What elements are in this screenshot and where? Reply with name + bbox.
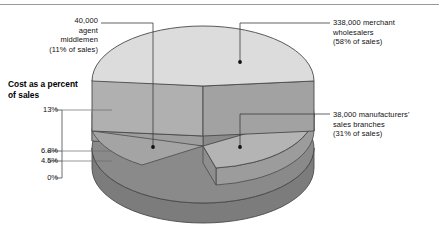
leader-dot-merchant-wholesalers [238,60,242,64]
agent-line2: agent [6,26,98,36]
callout-label-agent-middlemen: 40,000 agent middlemen (11% of sales) [6,16,98,54]
agent-share: (11% of sales) [6,45,98,55]
agent-line3: middlemen [6,35,98,45]
axis-title: Cost as a percent of sales [8,79,118,100]
axis-tick-13: 13% [18,105,58,114]
leader-dot-manufacturers-sales-branches [238,145,242,149]
manufacturers-count: 38,000 manufacturers' [333,110,437,120]
callout-label-manufacturers-sales-branches: 38,000 manufacturers' sales branches (31… [333,110,437,139]
axis-tick-0: 0% [18,173,58,182]
axis-tick-6-8: 6.8% [18,146,58,155]
callout-label-merchant-wholesalers: 338,000 merchant wholesalers (58% of sal… [333,18,437,47]
slice-merchant-wholesalers [92,26,314,136]
merchant-line2: wholesalers [333,28,437,38]
axis-title-line2: of sales [8,90,118,101]
merchant-share: (58% of sales) [333,37,437,47]
manufacturers-line2: sales branches [333,120,437,130]
manufacturers-share: (31% of sales) [333,129,437,139]
agent-count: 40,000 [6,16,98,26]
axis-tick-4-5: 4.5% [18,156,58,165]
cost-axis [47,110,62,178]
leader-dot-agent-middlemen [151,145,155,149]
axis-title-line1: Cost as a percent [8,79,118,90]
merchant-count: 338,000 merchant [333,18,437,28]
